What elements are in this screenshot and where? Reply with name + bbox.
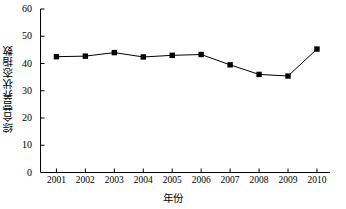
axis-lines (41, 9, 331, 173)
data-point-marker (256, 72, 261, 77)
data-point-marker (83, 53, 88, 58)
data-point-marker (314, 46, 319, 51)
data-line (56, 49, 317, 76)
x-axis-title: 年份 (0, 190, 346, 205)
chart-container: 综合营养状态指数 0102030405060 20012002200320042… (0, 0, 346, 209)
data-point-marker (54, 54, 59, 59)
data-markers (54, 46, 320, 78)
data-point-marker (198, 52, 203, 57)
x-axis-title-text: 年份 (163, 192, 183, 204)
data-point-marker (227, 62, 232, 67)
data-point-marker (112, 50, 117, 55)
y-tick-marks (41, 9, 45, 173)
data-point-marker (141, 54, 146, 59)
data-point-marker (285, 73, 290, 78)
plot-area (0, 0, 346, 209)
data-point-marker (170, 53, 175, 58)
x-tick-marks (56, 169, 317, 173)
